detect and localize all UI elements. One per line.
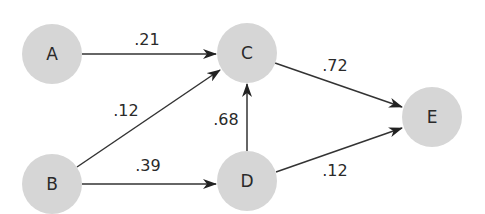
graph-diagram: .21.12.39.68.72.12 ABCDE — [0, 0, 485, 214]
node-c: C — [217, 23, 277, 83]
node-label: B — [46, 174, 58, 194]
arrow-icon — [77, 70, 220, 167]
edge-b-to-c: .12 — [77, 70, 220, 167]
node-b: B — [22, 154, 82, 214]
node-d: D — [217, 151, 277, 211]
edge-d-to-c: .68 — [213, 84, 247, 151]
node-label: C — [241, 43, 253, 63]
edge-d-to-e: .12 — [276, 128, 402, 180]
node-e: E — [402, 87, 462, 147]
edge-weight-label: .72 — [322, 56, 347, 75]
node-a: A — [22, 24, 82, 84]
nodes-layer: ABCDE — [22, 23, 462, 214]
node-label: D — [240, 171, 253, 191]
edge-b-to-d: .39 — [82, 156, 216, 184]
edge-weight-label: .12 — [322, 161, 347, 180]
edge-c-to-e: .72 — [275, 56, 402, 107]
node-label: A — [46, 44, 58, 64]
node-label: E — [427, 107, 438, 127]
edge-weight-label: .39 — [135, 156, 160, 175]
edge-weight-label: .21 — [134, 30, 159, 49]
edge-a-to-c: .21 — [82, 30, 216, 54]
edge-weight-label: .12 — [113, 101, 138, 120]
edge-weight-label: .68 — [213, 110, 238, 129]
